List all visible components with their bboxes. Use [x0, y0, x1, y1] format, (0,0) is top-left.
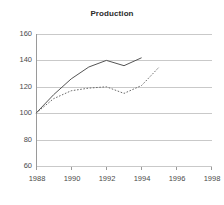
- series-line-solid: [36, 58, 142, 113]
- series-overlay: [0, 0, 224, 205]
- series-line-dotted: [36, 67, 159, 113]
- production-line-chart: Production 160 140 120 100 80 60 1988 19…: [0, 0, 224, 205]
